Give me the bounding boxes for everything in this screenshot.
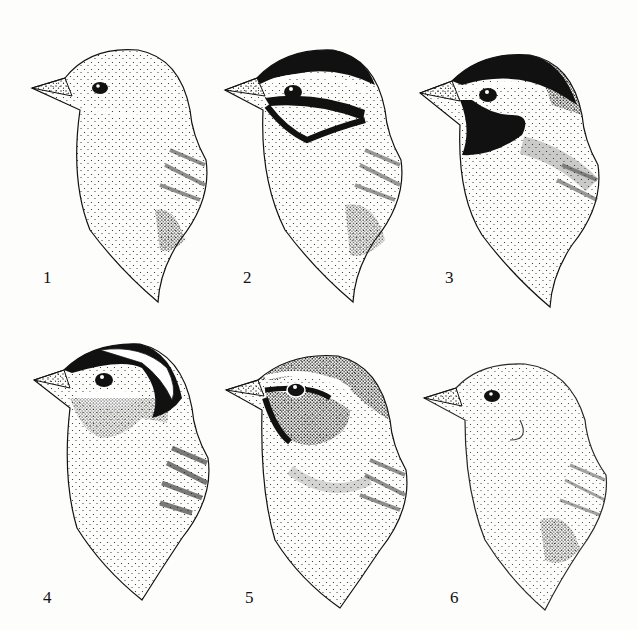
bird-head-figure-3 — [412, 45, 622, 345]
bird-head-5-drawing — [220, 350, 430, 620]
figure-number-6: 6 — [450, 588, 459, 608]
illustration-plate: 1 2 3 — [0, 0, 637, 630]
figure-number-4: 4 — [43, 588, 52, 608]
bird-head-4-drawing — [22, 338, 232, 608]
bird-head-1-drawing — [20, 40, 230, 310]
bird-head-figure-2 — [215, 40, 425, 340]
figure-number-3: 3 — [445, 268, 454, 288]
figure-number-1: 1 — [43, 268, 52, 288]
bird-head-figure-4 — [22, 338, 232, 630]
bird-head-3-drawing — [412, 45, 622, 315]
figure-number-5: 5 — [245, 588, 254, 608]
figure-number-2: 2 — [243, 268, 252, 288]
bird-head-figure-1 — [20, 40, 230, 340]
